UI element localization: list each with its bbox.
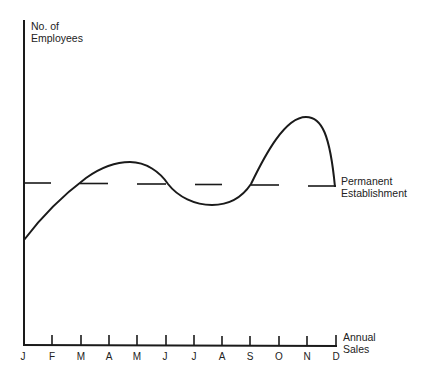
reference-line-label: Permanent Establishment bbox=[341, 175, 425, 199]
y-axis-label-line-1: No. of bbox=[31, 20, 111, 32]
y-axis-label: No. of Employees bbox=[31, 20, 111, 44]
month-label: J bbox=[158, 351, 172, 362]
permanent-establishment-line bbox=[24, 183, 336, 186]
x-axis-label-line-1: Annual bbox=[343, 331, 403, 343]
month-label: M bbox=[74, 351, 88, 362]
month-label: A bbox=[215, 351, 229, 362]
month-label: A bbox=[102, 351, 116, 362]
x-axis bbox=[23, 345, 337, 346]
x-axis-label: Annual Sales bbox=[343, 331, 403, 355]
month-label: F bbox=[45, 351, 59, 362]
month-label: J bbox=[16, 351, 30, 362]
reference-line-label-line-1: Permanent bbox=[341, 175, 425, 187]
month-label: N bbox=[300, 351, 314, 362]
month-label: J bbox=[187, 351, 201, 362]
month-label: M bbox=[130, 351, 144, 362]
x-axis-label-line-2: Sales bbox=[343, 343, 403, 355]
month-label: S bbox=[243, 351, 257, 362]
staffing-curve bbox=[24, 117, 335, 240]
y-axis-label-line-2: Employees bbox=[31, 32, 111, 44]
month-label: O bbox=[272, 351, 286, 362]
reference-line-label-line-2: Establishment bbox=[341, 187, 425, 199]
month-label: D bbox=[329, 351, 343, 362]
